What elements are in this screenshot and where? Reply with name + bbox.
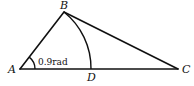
- triangle-diagram: B A D C 0.9rad: [0, 0, 194, 86]
- segment-BC: [64, 12, 178, 69]
- label-C: C: [182, 63, 191, 76]
- angle-marker-A: [29, 57, 35, 69]
- label-B: B: [59, 0, 68, 12]
- label-A: A: [7, 63, 16, 76]
- arc-BD: [64, 12, 91, 69]
- angle-label: 0.9rad: [38, 57, 68, 67]
- label-D: D: [86, 71, 96, 84]
